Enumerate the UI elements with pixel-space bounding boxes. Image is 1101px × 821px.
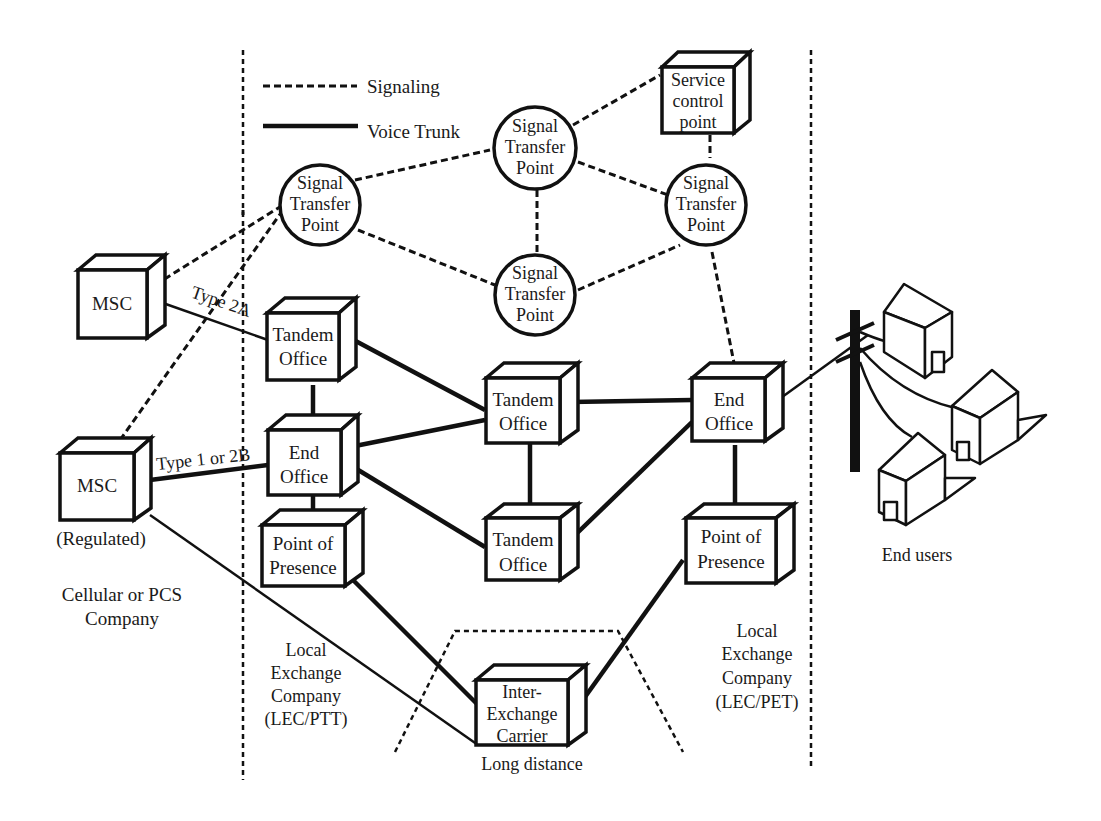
region-label-line: Cellular or PCS [62, 584, 182, 605]
trunk-tandemC2-endR [570, 422, 692, 540]
node-stp-left[interactable]: Signal Transfer Point [280, 165, 360, 245]
node-center-tandem-office-bottom[interactable]: Tandem Office [486, 504, 578, 580]
trunk-tandemL-tandemC [350, 338, 485, 410]
region-label-line: Exchange [722, 644, 793, 664]
node-label: Tandem [493, 389, 554, 410]
legend: Signaling Voice Trunk [263, 76, 461, 142]
node-label: Signal [512, 116, 558, 136]
sig-stpM-stpR [578, 245, 680, 290]
region-label-line: Local [286, 640, 327, 660]
node-label: Transfer [505, 137, 565, 157]
region-label-lec-right: Local Exchange Company (LEC/PET) [716, 621, 799, 713]
region-label-lec-left: Local Exchange Company (LEC/PTT) [265, 640, 348, 730]
node-label: Presence [697, 551, 765, 572]
trunk-endL-tandemC2 [350, 465, 485, 547]
node-label: Inter- [502, 682, 542, 702]
diagram-svg: Signaling Voice Trunk [0, 0, 1101, 821]
node-msc-bottom[interactable]: MSC [60, 438, 151, 520]
msc-regulated-caption: (Regulated) [56, 528, 146, 550]
region-label-line: Company [722, 668, 792, 688]
node-lec-left-point-of-presence[interactable]: Point of Presence [262, 510, 363, 586]
node-stp-top[interactable]: Signal Transfer Point [494, 107, 576, 189]
node-label: Signal [297, 173, 343, 193]
node-label: Point of [701, 526, 762, 547]
node-service-control-point[interactable]: Service control point [662, 52, 750, 133]
node-label: Tandem [493, 529, 554, 550]
node-label: Office [280, 466, 328, 487]
sig-stpL-stpM [358, 230, 495, 285]
node-stp-mid[interactable]: Signal Transfer Point [495, 255, 575, 335]
node-label: point [679, 112, 716, 132]
trunk-popR-iec [585, 560, 683, 697]
node-label: Point [516, 158, 554, 178]
trunk-tandemC-endR [570, 400, 692, 402]
node-label: Point [516, 305, 554, 325]
region-label-line: Company [271, 686, 341, 706]
node-label: End [714, 389, 745, 410]
sig-stpT-stpR [578, 162, 668, 195]
trunk-popL-iec [335, 562, 478, 705]
sig-stpR-endoffice [712, 252, 735, 368]
region-label-line: (LEC/PTT) [265, 709, 348, 730]
node-label: control [673, 91, 724, 111]
node-label: Point [301, 215, 339, 235]
legend-voice-trunk-label: Voice Trunk [367, 121, 461, 142]
node-inter-exchange-carrier[interactable]: Inter- Exchange Carrier [476, 665, 586, 746]
legend-signaling-label: Signaling [367, 76, 440, 97]
sig-stpT-scp [573, 75, 660, 125]
telecom-network-diagram: Signaling Voice Trunk [0, 0, 1101, 821]
node-label: Carrier [497, 726, 548, 746]
region-label-line: Company [85, 608, 159, 629]
node-right-point-of-presence[interactable]: Point of Presence [686, 504, 794, 583]
sig-stpL-stpT [355, 150, 490, 180]
node-label: Office [705, 413, 753, 434]
trunk-endL-tandemC [350, 420, 485, 447]
msc-bottom-label: MSC [77, 475, 117, 496]
node-label: Exchange [487, 704, 558, 724]
end-users-illustration [836, 284, 1046, 525]
region-label-line: Exchange [271, 663, 342, 683]
node-lec-left-end-office[interactable]: End Office [268, 415, 358, 495]
node-label: Point of [273, 533, 334, 554]
node-label: Transfer [676, 194, 736, 214]
node-label: Transfer [290, 194, 350, 214]
node-label: Office [499, 554, 547, 575]
node-label: Office [279, 348, 327, 369]
msc-top-label: MSC [92, 293, 132, 314]
house-icon [884, 284, 952, 378]
region-label-line: (LEC/PET) [716, 692, 799, 713]
node-lec-left-tandem-office[interactable]: Tandem Office [267, 298, 356, 380]
node-msc-top[interactable]: MSC [78, 255, 165, 338]
node-label: Office [499, 413, 547, 434]
node-center-tandem-office-top[interactable]: Tandem Office [486, 363, 578, 443]
node-right-end-office[interactable]: End Office [692, 363, 783, 441]
node-label: Point [687, 215, 725, 235]
house-icon [952, 370, 1046, 464]
node-label: Service [671, 70, 725, 90]
node-label: Presence [269, 557, 337, 578]
node-label: Signal [683, 173, 729, 193]
node-stp-right[interactable]: Signal Transfer Point [666, 165, 746, 245]
region-label-cellular: Cellular or PCS Company [62, 584, 182, 629]
region-label-line: Local [737, 621, 778, 641]
node-label: End [289, 442, 320, 463]
node-label: Signal [512, 263, 558, 283]
region-label-long-distance: Long distance [481, 754, 582, 774]
region-label-end-users: End users [882, 545, 953, 565]
node-label: Transfer [505, 284, 565, 304]
sig-msc1-stpL [155, 205, 283, 285]
node-label: Tandem [273, 324, 334, 345]
